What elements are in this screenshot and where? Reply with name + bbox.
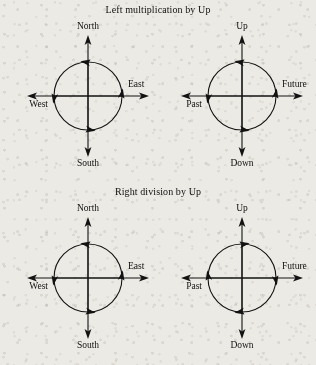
axis-label-left: West [29, 282, 48, 292]
axis-label-left: Past [186, 100, 202, 110]
axis-label-right: Future [282, 262, 307, 272]
rotation-diagram-svg [18, 208, 158, 348]
rotation-diagram-svg [172, 26, 312, 166]
axis-label-right: East [128, 80, 144, 90]
diagram-temporal-axes: Up Down Future Past [172, 208, 312, 348]
axis-label-right: Future [282, 80, 307, 90]
axis-label-down: Down [230, 341, 253, 351]
diagram-temporal-axes: Up Down Future Past [172, 26, 312, 166]
diagram-spatial-axes: North South East West [18, 208, 158, 348]
diagram-spatial-axes: North South East West [18, 26, 158, 166]
panel-title: Right division by Up [0, 186, 316, 197]
axis-label-up: North [77, 204, 99, 214]
panel-right-division: Right division by Up [0, 182, 316, 365]
figure-sheet: Left multiplication by Up [0, 0, 316, 365]
axis-label-left: West [29, 100, 48, 110]
panel-title: Left multiplication by Up [0, 4, 316, 15]
axis-label-down: South [77, 159, 99, 169]
axis-label-left: Past [186, 282, 202, 292]
rotation-diagram-svg [18, 26, 158, 166]
axis-label-up: Up [236, 22, 248, 32]
panel-left-multiplication: Left multiplication by Up [0, 0, 316, 182]
rotation-diagram-svg [172, 208, 312, 348]
axis-label-right: East [128, 262, 144, 272]
axis-label-down: Down [230, 159, 253, 169]
axis-label-down: South [77, 341, 99, 351]
axis-label-up: Up [236, 204, 248, 214]
axis-label-up: North [77, 22, 99, 32]
